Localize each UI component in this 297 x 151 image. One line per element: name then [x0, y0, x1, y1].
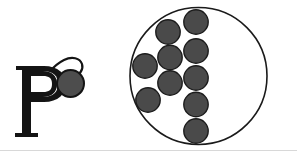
dot-4 — [158, 45, 182, 69]
figure-canvas — [0, 0, 297, 151]
dot-6 — [184, 66, 208, 90]
dot-8 — [136, 88, 160, 112]
dot-1 — [184, 10, 208, 34]
p-character-mark — [15, 58, 84, 137]
dotted-circle-mark — [130, 8, 267, 145]
dot-3 — [184, 39, 208, 63]
eye-dot-right-fg — [45, 81, 49, 85]
dot-2 — [156, 20, 180, 44]
dot-7 — [158, 71, 182, 95]
eye-dot-left-fg — [36, 81, 40, 85]
dot-5 — [133, 54, 157, 78]
gray-ball — [57, 70, 84, 97]
figure-scene — [0, 0, 297, 151]
dot-9 — [184, 92, 208, 116]
dot-10 — [184, 119, 208, 143]
